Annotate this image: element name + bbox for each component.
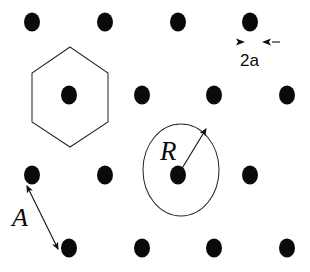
lattice-dot [206,86,222,105]
figure-canvas: R A 2a [0,0,310,272]
lattice-dot [97,13,113,32]
lattice-dot [24,166,40,185]
spacing-measure-2a [236,39,280,46]
lattice-vector-arrow-A [27,186,58,249]
lattice-dot [97,166,113,185]
spacing-label: 2a [240,51,259,70]
lattice-dot [242,166,258,185]
lattice-dot [134,86,150,105]
lattice-dot [61,86,77,105]
spacing-left-arrow-icon [236,39,245,46]
lattice-dot [134,239,150,258]
lattice-dot-grid [24,13,295,258]
lattice-dot [170,13,186,32]
radius-arrow [178,129,206,175]
lattice-figure-svg: R A 2a [0,0,310,272]
lattice-dot [242,13,258,32]
spacing-right-arrow-icon [262,39,271,46]
lattice-dot [206,239,222,258]
lattice-dot [61,239,77,258]
lattice-vector-label: A [10,203,28,232]
lattice-dot [279,239,295,258]
lattice-dot [279,86,295,105]
radius-label: R [159,136,177,166]
lattice-dot [24,13,40,32]
